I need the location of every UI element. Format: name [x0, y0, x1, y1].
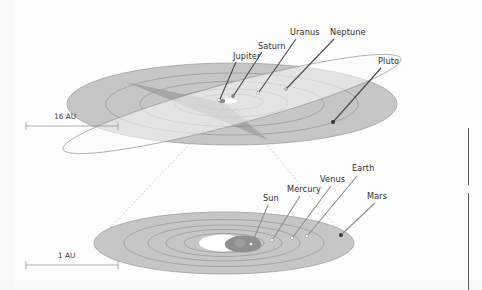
- outer-system-group: [26, 38, 406, 169]
- label-pluto: Pluto: [378, 57, 399, 65]
- leader-line-mars: [342, 203, 375, 234]
- label-neptune: Neptune: [330, 28, 366, 36]
- sun-core: [235, 239, 246, 247]
- scale-bar-1au: [26, 261, 118, 269]
- label-sun: Sun: [263, 194, 279, 202]
- label-jupiter: Jupiter: [233, 52, 260, 60]
- scale-label-16au: 16 AU: [54, 113, 76, 120]
- label-mercury: Mercury: [287, 185, 321, 193]
- label-uranus: Uranus: [290, 28, 320, 36]
- solar-system-figure: [0, 0, 482, 290]
- page-edge-rule-lower: [468, 193, 469, 290]
- label-saturn: Saturn: [258, 42, 286, 50]
- scale-label-1au: 1 AU: [58, 252, 76, 259]
- solar-system-diagram-page: Jupiter Saturn Uranus Neptune Pluto Sun …: [0, 0, 482, 290]
- label-earth: Earth: [352, 164, 374, 172]
- label-venus: Venus: [320, 175, 345, 183]
- label-mars: Mars: [367, 192, 387, 200]
- inner-system-group: [26, 176, 375, 274]
- page-edge-rule-upper: [468, 128, 469, 185]
